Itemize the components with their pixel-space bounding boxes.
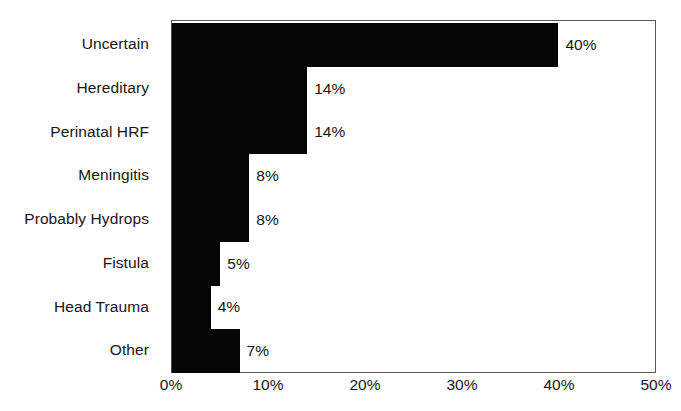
bar-value-label: 8%: [249, 212, 278, 228]
bar-value-label: 14%: [307, 81, 345, 97]
x-tick-label: 30%: [446, 377, 477, 393]
x-tick-label: 0%: [160, 377, 182, 393]
category-label: Perinatal HRF: [50, 124, 149, 140]
bar-value-label: 8%: [249, 168, 278, 184]
bar-chart: UncertainHereditaryPerinatal HRFMeningit…: [0, 0, 681, 411]
category-label-cell: Hereditary: [0, 66, 160, 110]
bar: [172, 23, 558, 67]
category-axis: UncertainHereditaryPerinatal HRFMeningit…: [0, 22, 160, 372]
bar-value-label: 40%: [558, 37, 596, 53]
bars-layer: 40%14%14%8%8%5%4%7%: [172, 23, 655, 373]
bar: [172, 329, 240, 373]
bar: [172, 286, 211, 330]
bar-row: 5%: [172, 242, 655, 286]
bar: [172, 198, 249, 242]
bar-row: 8%: [172, 198, 655, 242]
category-label-cell: Perinatal HRF: [0, 110, 160, 154]
x-tick-label: 40%: [543, 377, 574, 393]
category-label-cell: Other: [0, 328, 160, 372]
category-label: Fistula: [103, 255, 149, 271]
bar-row: 4%: [172, 286, 655, 330]
bar-row: 40%: [172, 23, 655, 67]
plot-area: 40%14%14%8%8%5%4%7%: [171, 20, 656, 373]
bar-value-label: 7%: [240, 343, 269, 359]
category-label-cell: Probably Hydrops: [0, 197, 160, 241]
bar-row: 8%: [172, 154, 655, 198]
bar-row: 14%: [172, 111, 655, 155]
x-tick-label: 50%: [640, 377, 671, 393]
x-tick-label: 10%: [252, 377, 283, 393]
category-label: Head Trauma: [54, 299, 149, 315]
bar: [172, 67, 307, 111]
category-label-cell: Uncertain: [0, 22, 160, 66]
bar-row: 7%: [172, 329, 655, 373]
category-label: Other: [110, 342, 149, 358]
category-label-cell: Fistula: [0, 241, 160, 285]
bar-value-label: 5%: [220, 256, 249, 272]
bar-value-label: 14%: [307, 125, 345, 141]
bar: [172, 154, 249, 198]
category-label: Hereditary: [77, 80, 150, 96]
category-label: Uncertain: [82, 36, 149, 52]
x-tick-label: 20%: [349, 377, 380, 393]
bar-row: 14%: [172, 67, 655, 111]
bar: [172, 242, 220, 286]
category-label: Meningitis: [78, 167, 149, 183]
category-label: Probably Hydrops: [24, 211, 149, 227]
bar-value-label: 4%: [211, 300, 240, 316]
bar: [172, 111, 307, 155]
category-label-cell: Head Trauma: [0, 285, 160, 329]
x-axis-tick-labels: 0%10%20%30%40%50%: [171, 377, 656, 401]
category-label-cell: Meningitis: [0, 153, 160, 197]
